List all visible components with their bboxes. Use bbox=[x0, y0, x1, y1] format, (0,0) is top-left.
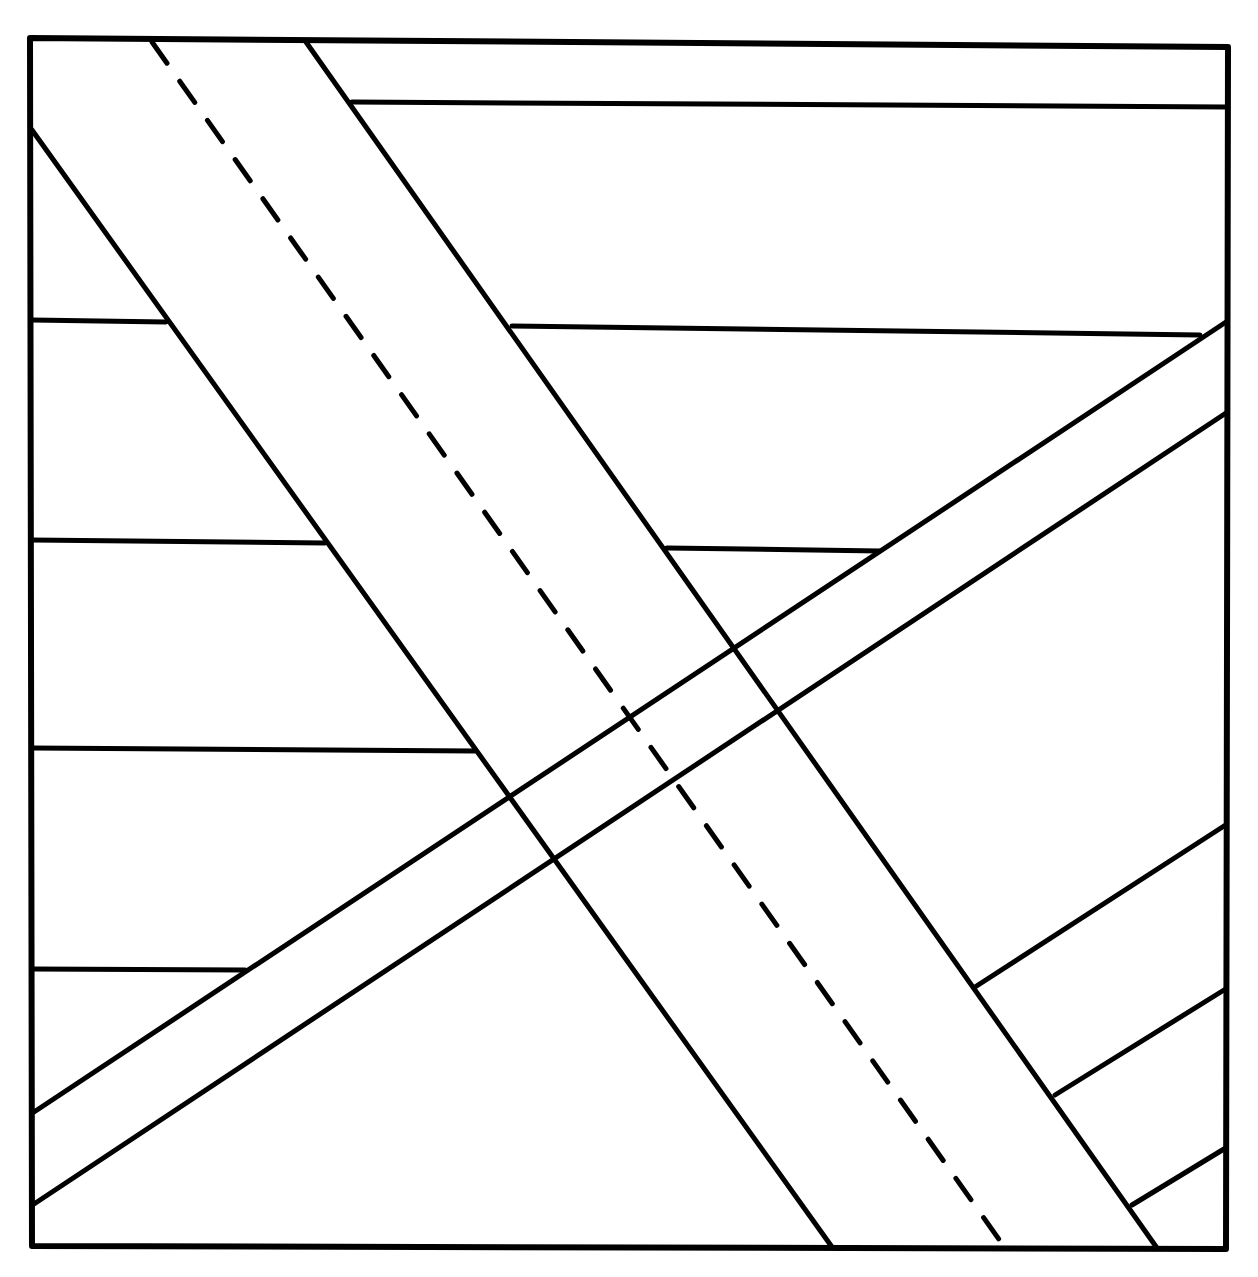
stratum-line bbox=[32, 540, 325, 543]
stratum-line bbox=[32, 969, 245, 970]
stratum-line bbox=[352, 102, 1226, 107]
geologic-block-diagram bbox=[0, 0, 1258, 1277]
stratum-line bbox=[32, 320, 166, 322]
main-dike-left-edge bbox=[32, 130, 832, 1247]
stratum-line bbox=[512, 326, 1200, 335]
stratum-line bbox=[667, 548, 880, 551]
strata-lines bbox=[32, 102, 1226, 1205]
diagram-frame bbox=[30, 38, 1228, 1249]
stratum-line bbox=[1132, 1149, 1224, 1205]
stratum-line bbox=[1055, 990, 1224, 1095]
stratum-line bbox=[32, 748, 475, 751]
stratum-line bbox=[975, 826, 1224, 987]
secondary-dike-lower-edge bbox=[34, 413, 1226, 1204]
main-dike-right-edge bbox=[306, 42, 1157, 1248]
